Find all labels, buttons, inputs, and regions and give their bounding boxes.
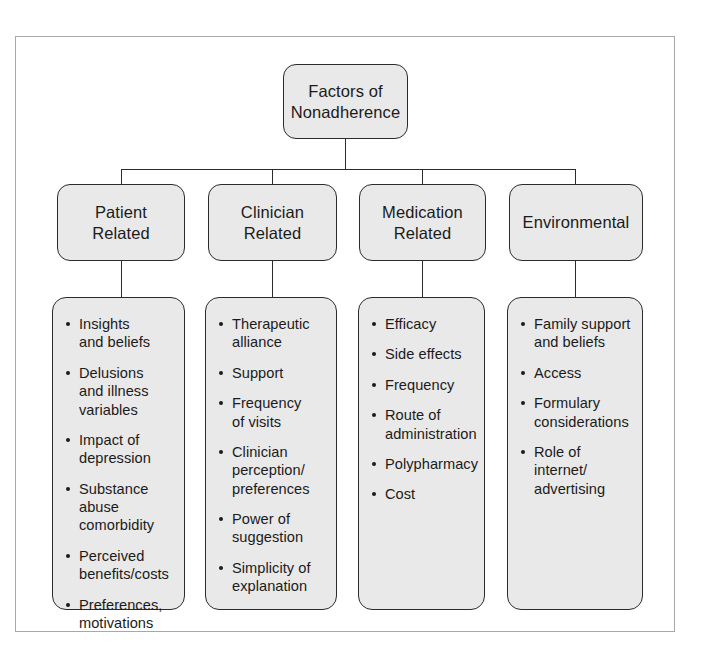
detail-box-clinician-related: Therapeutic allianceSupportFrequency of … bbox=[205, 297, 337, 610]
connector-drop-medication bbox=[422, 169, 423, 185]
detail-list-item: Access bbox=[519, 364, 632, 382]
detail-list-item: Support bbox=[217, 364, 326, 382]
category-node-patient-related: Patient Related bbox=[57, 184, 185, 261]
detail-list-clinician-related: Therapeutic allianceSupportFrequency of … bbox=[206, 298, 336, 596]
detail-list-item: Efficacy bbox=[370, 315, 474, 333]
category-label-patient-related: Patient Related bbox=[58, 201, 184, 244]
category-label-clinician-related: Clinician Related bbox=[209, 201, 336, 244]
detail-box-medication-related: EfficacySide effectsFrequencyRoute of ad… bbox=[358, 297, 485, 610]
root-node-label: Factors of Nonadherence bbox=[284, 80, 407, 123]
connector-link-patient bbox=[121, 261, 122, 298]
detail-list-environmental: Family support and beliefsAccessFormular… bbox=[508, 298, 642, 498]
detail-box-patient-related: Insights and beliefsDelusions and illnes… bbox=[52, 297, 185, 610]
detail-list-item: Cost bbox=[370, 485, 474, 503]
category-label-environmental: Environmental bbox=[510, 212, 642, 233]
detail-list-item: Insights and beliefs bbox=[64, 315, 174, 352]
category-node-environmental: Environmental bbox=[509, 184, 643, 261]
category-node-clinician-related: Clinician Related bbox=[208, 184, 337, 261]
detail-box-environmental: Family support and beliefsAccessFormular… bbox=[507, 297, 643, 610]
detail-list-item: Side effects bbox=[370, 345, 474, 363]
connector-horizontal-bus bbox=[121, 169, 576, 170]
connector-drop-clinician bbox=[272, 169, 273, 185]
detail-list-item: Family support and beliefs bbox=[519, 315, 632, 352]
connector-link-clinician bbox=[272, 261, 273, 298]
detail-list-item: Frequency bbox=[370, 376, 474, 394]
connector-link-environmental bbox=[575, 261, 576, 298]
detail-list-medication-related: EfficacySide effectsFrequencyRoute of ad… bbox=[359, 298, 484, 504]
category-node-medication-related: Medication Related bbox=[359, 184, 486, 261]
detail-list-item: Formulary considerations bbox=[519, 394, 632, 431]
detail-list-item: Impact of depression bbox=[64, 431, 174, 468]
connector-drop-environmental bbox=[575, 169, 576, 185]
connector-link-medication bbox=[422, 261, 423, 298]
detail-list-item: Route of administration bbox=[370, 406, 474, 443]
detail-list-item: Preferences, motivations bbox=[64, 596, 174, 633]
detail-list-item: Polypharmacy bbox=[370, 455, 474, 473]
category-label-medication-related: Medication Related bbox=[360, 201, 485, 244]
detail-list-item: Clinician perception/ preferences bbox=[217, 443, 326, 498]
detail-list-item: Role of internet/ advertising bbox=[519, 443, 632, 498]
flowchart-diagram: Factors of Nonadherence Patient Related … bbox=[0, 0, 716, 659]
detail-list-item: Frequency of visits bbox=[217, 394, 326, 431]
connector-drop-patient bbox=[121, 169, 122, 185]
detail-list-item: Delusions and illness variables bbox=[64, 364, 174, 419]
detail-list-item: Power of suggestion bbox=[217, 510, 326, 547]
detail-list-patient-related: Insights and beliefsDelusions and illnes… bbox=[53, 298, 184, 632]
detail-list-item: Simplicity of explanation bbox=[217, 559, 326, 596]
detail-list-item: Substance abuse comorbidity bbox=[64, 480, 174, 535]
detail-list-item: Perceived benefits/costs bbox=[64, 547, 174, 584]
detail-list-item: Therapeutic alliance bbox=[217, 315, 326, 352]
root-node-factors-of-nonadherence: Factors of Nonadherence bbox=[283, 64, 408, 139]
connector-root-stem bbox=[345, 139, 346, 170]
